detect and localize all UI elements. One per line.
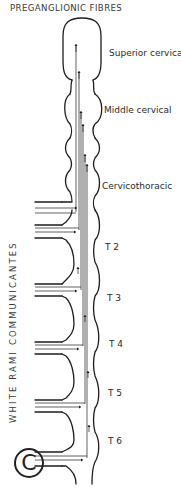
label-middle-cervical: Middle cervical [104,106,172,115]
label-t4: T 4 [109,340,123,349]
label-t2: T 2 [105,243,119,252]
label-t3: T 3 [107,294,121,303]
cervicothoracic-ganglion-outline [62,138,72,202]
label-superior-cervical: Superior cervical [109,49,181,58]
thoracic-chain-right-outline [92,210,100,484]
sympathetic-chain-diagram: PREGANGLIONIC FIBRES [0,0,181,488]
label-t5: T 5 [108,389,122,398]
label-white-rami-communicantes: WHITE RAMI COMMUNICANTES [9,241,17,423]
middle-cervical-ganglion-outline [65,94,72,138]
label-t6: T 6 [108,437,122,446]
superior-cervical-ganglion-outline [63,18,101,80]
ganglion-chain-drawing [0,0,181,488]
label-cervicothoracic: Cervicothoracic [102,182,172,191]
panel-letter-badge: C [14,448,44,478]
